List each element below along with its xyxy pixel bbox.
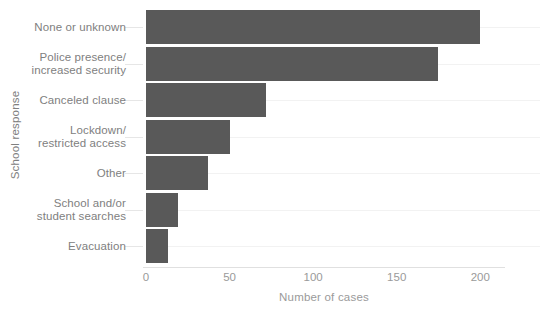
y-axis-tick — [125, 100, 143, 101]
bar — [146, 83, 266, 117]
category-label: Other — [26, 167, 126, 180]
x-axis-tick-label: 200 — [460, 271, 500, 283]
y-axis-tick — [125, 246, 143, 247]
bar — [146, 193, 178, 227]
y-axis-tick — [125, 137, 143, 138]
bar — [146, 229, 168, 263]
bar — [146, 47, 438, 81]
category-label: Canceled clause — [26, 94, 126, 107]
y-axis-tick — [125, 173, 143, 174]
y-axis-title-label: School response — [9, 91, 21, 180]
y-axis-tick — [125, 64, 143, 65]
category-label: None or unknown — [26, 21, 126, 34]
bar — [146, 10, 480, 44]
bar — [146, 156, 208, 190]
category-label: School and/orstudent searches — [26, 197, 126, 223]
category-label: Lockdown/restricted access — [26, 124, 126, 150]
category-label: Evacuation — [26, 240, 126, 253]
x-axis-tick-label: 150 — [377, 271, 417, 283]
x-axis-tick-label: 50 — [210, 271, 250, 283]
plot-area — [146, 10, 502, 266]
y-axis-tick — [125, 210, 143, 211]
category-label-line: restricted access — [26, 137, 126, 150]
gridline — [146, 210, 540, 211]
category-label-line: School and/or — [26, 197, 126, 210]
category-label-line: Lockdown/ — [26, 124, 126, 137]
x-axis-title: Number of cases — [146, 291, 502, 303]
category-label: Police presence/increased security — [26, 51, 126, 77]
bar-chart: School response None or unknownPolice pr… — [0, 0, 542, 317]
category-label-line: increased security — [26, 64, 126, 77]
category-label-line: Canceled clause — [26, 94, 126, 107]
x-axis-tick-label: 0 — [126, 271, 166, 283]
category-label-line: Police presence/ — [26, 51, 126, 64]
category-label-line: None or unknown — [26, 21, 126, 34]
x-axis-tick-label: 100 — [293, 271, 333, 283]
category-label-line: Other — [26, 167, 126, 180]
category-label-line: student searches — [26, 210, 126, 223]
x-axis-line — [143, 267, 505, 268]
bar — [146, 120, 230, 154]
category-label-line: Evacuation — [26, 240, 126, 253]
y-axis-tick — [125, 27, 143, 28]
gridline — [146, 246, 540, 247]
